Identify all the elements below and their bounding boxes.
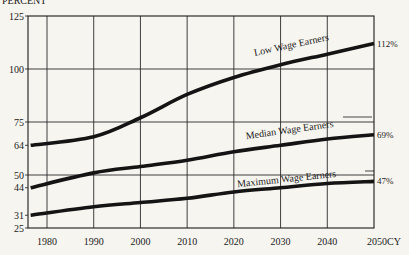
y-tick-label: 31 — [14, 210, 24, 221]
y-tick-label: 75 — [14, 117, 24, 128]
y-tick-label: 125 — [9, 11, 24, 22]
y-tick-label: 100 — [9, 64, 24, 75]
x-tick-label: 2040 — [317, 236, 337, 247]
series-labels: Low Wage EarnersMedian Wage EarnersMaxim… — [237, 31, 374, 189]
end-value-labels: 112%69%47% — [377, 39, 398, 187]
end-value-label: 69% — [377, 130, 394, 140]
end-value-label: 47% — [377, 176, 394, 186]
y-tick-label: 25 — [14, 223, 24, 234]
y-axis-label: PERCENT — [2, 0, 46, 6]
x-tick-label: 2010 — [177, 236, 197, 247]
y-tick-label: 44 — [14, 182, 24, 193]
y-tick-label: 50 — [14, 170, 24, 181]
x-tick-label: 2020 — [224, 236, 244, 247]
x-tick-label: 2030 — [271, 236, 291, 247]
series-label: Low Wage Earners — [253, 31, 330, 58]
x-tick-label: 1990 — [84, 236, 104, 247]
x-tick-label: 2050CY — [367, 236, 401, 247]
end-value-label: 112% — [377, 39, 398, 49]
y-axis-ticks: 125100756450443125 — [9, 11, 28, 234]
series-label: Median Wage Earners — [245, 118, 334, 141]
wage-earners-line-chart: PERCENT 125100756450443125 1980199020002… — [0, 0, 409, 255]
maximum-wage-earners-line — [31, 181, 374, 215]
x-axis-ticks: 19801990200020102020203020402050CY — [37, 236, 401, 247]
x-tick-label: 1980 — [37, 236, 57, 247]
y-tick-label: 64 — [14, 140, 24, 151]
x-tick-label: 2000 — [130, 236, 150, 247]
